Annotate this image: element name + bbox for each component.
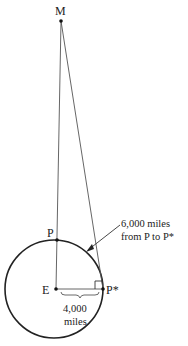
- label-e: E: [42, 283, 49, 297]
- label-m: M: [55, 4, 66, 18]
- radius-label-line2: miles: [64, 316, 87, 327]
- point-p: [55, 238, 59, 242]
- arc-label-line1: 6,000 miles: [121, 218, 170, 229]
- arc-label-line2: from P to P*: [121, 231, 174, 242]
- line-m-to-e: [56, 21, 61, 289]
- earth-moon-diagram: M P E P* 6,000 miles from P to P* 4,000 …: [0, 0, 188, 346]
- point-e: [54, 287, 58, 291]
- point-m: [59, 19, 63, 23]
- radius-label-line1: 4,000: [63, 303, 87, 314]
- label-p: P: [47, 226, 54, 240]
- point-pstar: [101, 287, 105, 291]
- arrowhead-icon: [86, 244, 94, 252]
- label-pstar: P*: [106, 283, 119, 297]
- brace-4000-miles: [61, 292, 99, 298]
